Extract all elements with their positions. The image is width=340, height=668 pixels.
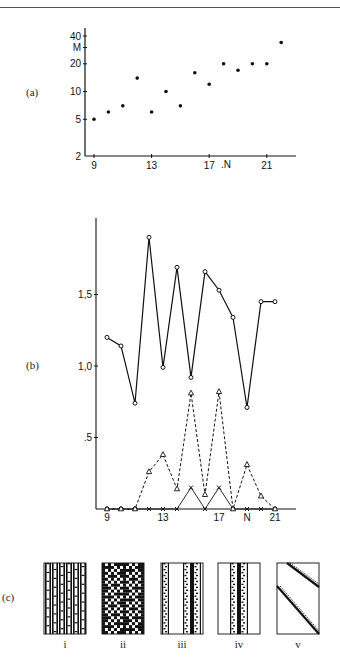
cell xyxy=(61,619,64,620)
cell xyxy=(117,578,120,581)
cell xyxy=(108,610,111,613)
cell xyxy=(185,593,187,594)
cell xyxy=(82,610,85,611)
column-bar xyxy=(66,563,68,634)
cell xyxy=(102,578,105,581)
cell xyxy=(68,581,71,582)
cell xyxy=(123,628,126,631)
cell xyxy=(102,584,105,587)
cell xyxy=(75,613,78,614)
cell xyxy=(129,607,132,610)
cell xyxy=(105,572,108,575)
cell xyxy=(126,563,129,566)
cell xyxy=(195,625,197,626)
cell xyxy=(132,593,135,596)
cell xyxy=(117,622,120,625)
cell xyxy=(195,607,197,608)
cell xyxy=(165,584,167,585)
cell xyxy=(129,628,132,631)
cell xyxy=(102,575,105,578)
cell xyxy=(242,566,244,567)
cell xyxy=(196,616,198,617)
cell xyxy=(123,596,126,599)
cell xyxy=(108,593,111,596)
cell xyxy=(68,599,71,600)
cell xyxy=(243,569,245,570)
cell xyxy=(102,590,105,593)
cell xyxy=(129,569,132,572)
cell xyxy=(114,613,117,616)
cell xyxy=(141,593,144,596)
cell xyxy=(186,625,188,626)
cell xyxy=(185,563,187,564)
cell xyxy=(138,593,141,596)
band-edge xyxy=(200,563,201,634)
cell xyxy=(141,569,144,572)
cell xyxy=(135,613,138,616)
cell xyxy=(117,593,120,596)
cell xyxy=(123,581,126,584)
cell xyxy=(47,616,50,617)
cell xyxy=(102,622,105,625)
cell xyxy=(135,590,138,593)
cell xyxy=(117,572,120,575)
cell xyxy=(232,569,234,570)
cell xyxy=(105,616,108,619)
cell xyxy=(47,607,50,608)
cell xyxy=(232,604,234,605)
cell xyxy=(232,563,234,564)
cell xyxy=(186,590,188,591)
cell xyxy=(102,607,105,610)
cell xyxy=(123,613,126,616)
cell xyxy=(61,593,64,594)
cell xyxy=(47,563,50,564)
cell xyxy=(123,572,126,575)
cell xyxy=(126,619,129,622)
cell xyxy=(135,572,138,575)
cell xyxy=(141,631,144,634)
cell xyxy=(138,628,141,631)
cell xyxy=(114,593,117,596)
cell xyxy=(47,581,50,582)
cell xyxy=(165,596,167,597)
cell xyxy=(132,599,135,602)
cell xyxy=(111,601,114,604)
cell xyxy=(164,604,166,605)
cell xyxy=(123,625,126,628)
cell xyxy=(233,625,235,626)
cell xyxy=(243,604,245,605)
cell xyxy=(185,628,187,629)
cell xyxy=(164,563,166,564)
band-edge xyxy=(183,563,184,634)
cell xyxy=(165,601,167,602)
cell xyxy=(165,590,167,591)
cell xyxy=(61,575,64,576)
cell xyxy=(141,563,144,566)
cell xyxy=(102,613,105,616)
pattern-iii xyxy=(161,563,203,634)
cell xyxy=(102,569,105,572)
cell xyxy=(243,616,245,617)
cell xyxy=(232,616,234,617)
cell xyxy=(123,584,126,587)
cell xyxy=(120,572,123,575)
cell xyxy=(123,563,126,566)
cell xyxy=(195,601,197,602)
cell xyxy=(135,616,138,619)
cell xyxy=(126,581,129,584)
cell xyxy=(123,610,126,613)
cell xyxy=(132,628,135,631)
cell xyxy=(186,607,188,608)
cell xyxy=(114,584,117,587)
cell xyxy=(120,581,123,584)
cell xyxy=(185,581,187,582)
cell xyxy=(135,578,138,581)
cell xyxy=(141,590,144,593)
cell xyxy=(102,587,105,590)
cell xyxy=(165,607,167,608)
cell xyxy=(120,604,123,607)
cell xyxy=(68,590,71,591)
cell xyxy=(138,599,141,602)
cell xyxy=(75,578,78,579)
cell xyxy=(82,628,85,629)
